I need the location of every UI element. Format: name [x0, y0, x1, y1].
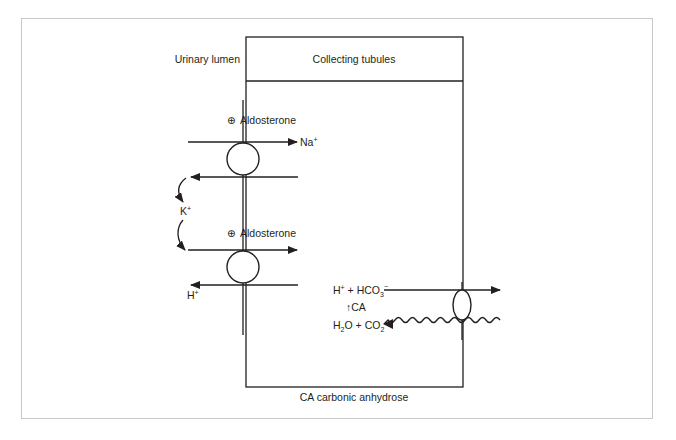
ca-arrow-label: ↑CA [346, 301, 366, 313]
wavy-diffusion-arrow [384, 318, 500, 325]
aldosterone-label-1: Aldosterone [240, 114, 296, 126]
transporter-circle-2 [227, 251, 259, 283]
na-k-transporter: ⊕ Aldosterone Na+ [188, 114, 318, 177]
k-label: K+ [180, 205, 191, 217]
plus-icon: ⊕ [227, 227, 236, 239]
h-label: H+ [187, 289, 199, 301]
transporter-circle-1 [227, 143, 259, 175]
na-label: Na+ [300, 136, 318, 148]
cell-box [246, 37, 463, 387]
caption: CA carbonic anhydrose [300, 391, 409, 403]
reaction-top-label: H+ + HCO3− [333, 283, 388, 298]
basolateral-transporter [453, 290, 471, 320]
reaction-bottom-label: H2O + CO2 [333, 319, 384, 333]
carbonic-anhydrase-reaction: H+ + HCO3− ↑CA H2O + CO2 [333, 282, 500, 340]
aldosterone-label-2: Aldosterone [240, 227, 296, 239]
urinary-lumen-label: Urinary lumen [175, 53, 241, 65]
plus-icon: ⊕ [227, 114, 236, 126]
collecting-tubules-label: Collecting tubules [313, 53, 396, 65]
collecting-tubule-diagram: Urinary lumen Collecting tubules ⊕ Aldos… [0, 0, 676, 440]
k-recycling-arrows: K+ [178, 178, 191, 250]
